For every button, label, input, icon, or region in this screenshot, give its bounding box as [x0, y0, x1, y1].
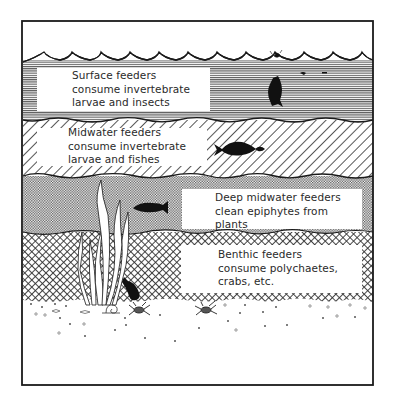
- midwater-feeders-label: Midwater feeders consume invertebrate la…: [37, 128, 207, 166]
- label-line: consume invertebrate: [68, 140, 207, 154]
- sediment: [30, 303, 366, 342]
- crab-2-icon: [195, 301, 217, 315]
- label-line: larvae and insects: [72, 96, 210, 110]
- label-line: clean epiphytes from: [215, 205, 362, 219]
- crab-1-icon: [129, 302, 150, 315]
- deep-midwater-feeders-label: Deep midwater feeders clean epiphytes fr…: [182, 189, 362, 229]
- label-line: Benthic feeders: [218, 248, 362, 262]
- label-line: plants: [215, 218, 362, 232]
- label-line: Surface feeders: [72, 68, 210, 83]
- benthic-feeders-label: Benthic feeders consume polychaetes, cra…: [181, 245, 362, 293]
- snail-icon: [102, 305, 120, 313]
- label-line: consume invertebrate: [72, 83, 210, 97]
- label-line: Midwater feeders: [68, 126, 207, 140]
- label-line: consume polychaetes,: [218, 262, 362, 276]
- label-line: larvae and fishes: [68, 153, 207, 167]
- label-line: Deep midwater feeders: [215, 191, 362, 205]
- surface-feeders-label: Surface feeders consume invertebrate lar…: [37, 68, 210, 111]
- label-line: crabs, etc.: [218, 275, 362, 289]
- larvae-icon-2: [322, 72, 327, 74]
